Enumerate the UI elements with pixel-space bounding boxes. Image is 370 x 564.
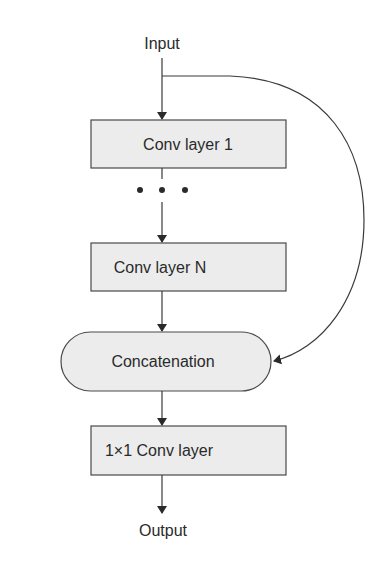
conv-1x1-label: 1×1 Conv layer <box>105 442 214 459</box>
input-label: Input <box>144 35 180 52</box>
ellipsis-dots <box>137 187 188 193</box>
conv-layer-1-box: Conv layer 1 <box>91 120 286 168</box>
concatenation-label: Concatenation <box>111 353 214 370</box>
conv-layer-n-label: Conv layer N <box>114 259 206 276</box>
skip-connection-arrow <box>162 76 364 361</box>
conv-layer-1-label: Conv layer 1 <box>143 136 233 153</box>
concatenation-node: Concatenation <box>61 332 271 391</box>
output-label: Output <box>139 522 188 539</box>
conv-layer-n-box: Conv layer N <box>91 243 286 291</box>
conv-1x1-box: 1×1 Conv layer <box>91 426 286 475</box>
densenet-block-diagram: Input Conv layer 1 Conv layer N Concaten… <box>0 0 370 564</box>
